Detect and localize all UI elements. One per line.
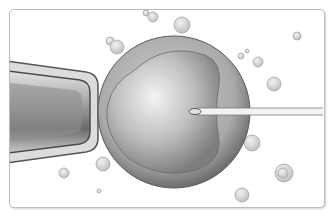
bubble <box>174 17 190 33</box>
bubble <box>59 168 69 178</box>
bubble <box>148 12 158 22</box>
bubble <box>110 40 124 54</box>
holding-pipette <box>0 60 98 164</box>
injection-needle <box>189 108 327 115</box>
bubble <box>293 32 301 40</box>
bubble <box>97 189 101 193</box>
bubble <box>253 57 263 67</box>
icsi-illustration <box>0 0 333 217</box>
bubble <box>96 157 110 171</box>
bubble <box>235 188 249 202</box>
bubble <box>245 49 249 53</box>
bubble <box>238 53 244 59</box>
bubble <box>244 135 260 151</box>
bubble <box>267 77 281 91</box>
bubble <box>278 168 288 178</box>
